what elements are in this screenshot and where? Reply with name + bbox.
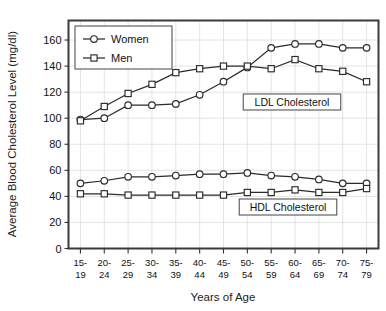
- x-tick-label-upper: 70-: [336, 257, 350, 268]
- y-tick-label: 80: [49, 138, 61, 150]
- data-point-ldl-men: [244, 63, 250, 69]
- data-point-hdl-women: [244, 170, 251, 177]
- data-point-ldl-men: [340, 68, 346, 74]
- y-axis-title: Average Blood Cholesterol Level (mg/dl): [6, 31, 18, 237]
- data-point-ldl-men: [125, 90, 131, 96]
- data-point-ldl-men: [316, 66, 322, 72]
- y-tick-label: 100: [43, 112, 61, 124]
- x-tick-label-lower: 19: [75, 269, 86, 280]
- data-point-ldl-women: [101, 115, 108, 122]
- x-tick-label-lower: 34: [147, 269, 158, 280]
- x-tick-label-upper: 40-: [193, 257, 207, 268]
- data-point-ldl-women: [196, 91, 203, 98]
- data-point-hdl-men: [244, 189, 250, 195]
- y-tick-label: 20: [49, 216, 61, 228]
- data-point-hdl-women: [173, 172, 180, 179]
- data-point-ldl-women: [173, 101, 180, 108]
- data-point-hdl-women: [292, 174, 299, 181]
- chart-canvas: 020406080100120140160 15-1920-2425-2930-…: [0, 0, 386, 311]
- data-point-ldl-women: [363, 45, 370, 52]
- data-point-ldl-women: [292, 41, 299, 48]
- x-tick-label-lower: 79: [361, 269, 372, 280]
- x-tick-label-lower: 74: [337, 269, 348, 280]
- data-point-ldl-men: [197, 66, 203, 72]
- y-tick-label: 0: [55, 243, 61, 255]
- x-tick-label-lower: 59: [266, 269, 277, 280]
- y-tick-label: 160: [43, 34, 61, 46]
- x-tick-label-upper: 55-: [264, 257, 278, 268]
- x-tick-label-lower: 64: [290, 269, 301, 280]
- data-point-hdl-men: [220, 192, 226, 198]
- data-point-hdl-men: [292, 187, 298, 193]
- x-tick-label-upper: 15-: [74, 257, 88, 268]
- chart-annotations: LDL CholesterolHDL Cholesterol: [239, 94, 341, 215]
- y-tick-label: 60: [49, 164, 61, 176]
- data-point-hdl-men: [268, 189, 274, 195]
- x-tick-label-upper: 35-: [169, 257, 183, 268]
- data-point-hdl-women: [101, 177, 108, 184]
- data-point-hdl-men: [363, 185, 369, 191]
- data-point-ldl-women: [149, 102, 156, 109]
- data-point-ldl-men: [220, 63, 226, 69]
- data-point-ldl-men: [363, 79, 369, 85]
- x-tick-label-lower: 69: [314, 269, 325, 280]
- x-tick-label-upper: 45-: [217, 257, 231, 268]
- data-point-hdl-women: [339, 180, 346, 187]
- x-tick-label-lower: 54: [242, 269, 253, 280]
- data-point-hdl-men: [340, 189, 346, 195]
- x-tick-label-lower: 24: [99, 269, 110, 280]
- cholesterol-chart-figure: 020406080100120140160 15-1920-2425-2930-…: [0, 0, 386, 311]
- data-point-ldl-men: [149, 81, 155, 87]
- data-point-hdl-men: [101, 191, 107, 197]
- x-axis-ticks: 15-1920-2425-2930-3435-3940-4445-4950-54…: [74, 249, 374, 280]
- data-point-hdl-men: [77, 191, 83, 197]
- data-point-hdl-men: [173, 192, 179, 198]
- x-tick-label-lower: 29: [123, 269, 134, 280]
- data-point-ldl-men: [77, 118, 83, 124]
- legend-label-women: Women: [111, 33, 149, 45]
- legend-marker-men: [91, 55, 97, 61]
- x-tick-label-upper: 75-: [360, 257, 374, 268]
- data-point-ldl-men: [292, 56, 298, 62]
- data-point-hdl-men: [149, 192, 155, 198]
- data-point-ldl-women: [125, 102, 132, 109]
- x-tick-label-upper: 60-: [288, 257, 302, 268]
- data-point-hdl-women: [77, 180, 84, 187]
- data-point-hdl-men: [316, 189, 322, 195]
- y-tick-label: 40: [49, 190, 61, 202]
- legend-marker-women: [91, 36, 98, 43]
- x-tick-label-lower: 44: [194, 269, 205, 280]
- y-tick-label: 140: [43, 60, 61, 72]
- data-point-hdl-men: [197, 192, 203, 198]
- data-point-ldl-women: [268, 45, 275, 52]
- data-point-ldl-men: [268, 66, 274, 72]
- x-axis-title: Years of Age: [191, 291, 256, 303]
- data-point-hdl-women: [196, 171, 203, 178]
- x-tick-label-lower: 39: [171, 269, 182, 280]
- data-point-hdl-women: [125, 174, 132, 181]
- data-point-hdl-women: [149, 174, 156, 181]
- data-point-ldl-women: [339, 45, 346, 52]
- x-tick-label-upper: 20-: [97, 257, 111, 268]
- data-point-hdl-women: [220, 171, 227, 178]
- chart-legend: WomenMen: [75, 26, 172, 69]
- x-tick-label-upper: 65-: [312, 257, 326, 268]
- annotation-hdl-label: HDL Cholesterol: [250, 201, 327, 213]
- legend-label-men: Men: [111, 52, 132, 64]
- y-tick-label: 120: [43, 86, 61, 98]
- x-tick-label-upper: 25-: [121, 257, 135, 268]
- data-point-ldl-women: [316, 41, 323, 48]
- data-point-hdl-men: [125, 192, 131, 198]
- data-point-ldl-men: [173, 70, 179, 76]
- data-point-ldl-women: [220, 78, 227, 85]
- annotation-ldl-label: LDL Cholesterol: [255, 96, 330, 108]
- y-axis-ticks: 020406080100120140160: [43, 34, 68, 254]
- data-point-ldl-men: [101, 103, 107, 109]
- x-tick-label-lower: 49: [218, 269, 229, 280]
- data-point-hdl-women: [268, 172, 275, 179]
- x-tick-label-upper: 50-: [240, 257, 254, 268]
- data-point-hdl-women: [316, 176, 323, 183]
- x-tick-label-upper: 30-: [145, 257, 159, 268]
